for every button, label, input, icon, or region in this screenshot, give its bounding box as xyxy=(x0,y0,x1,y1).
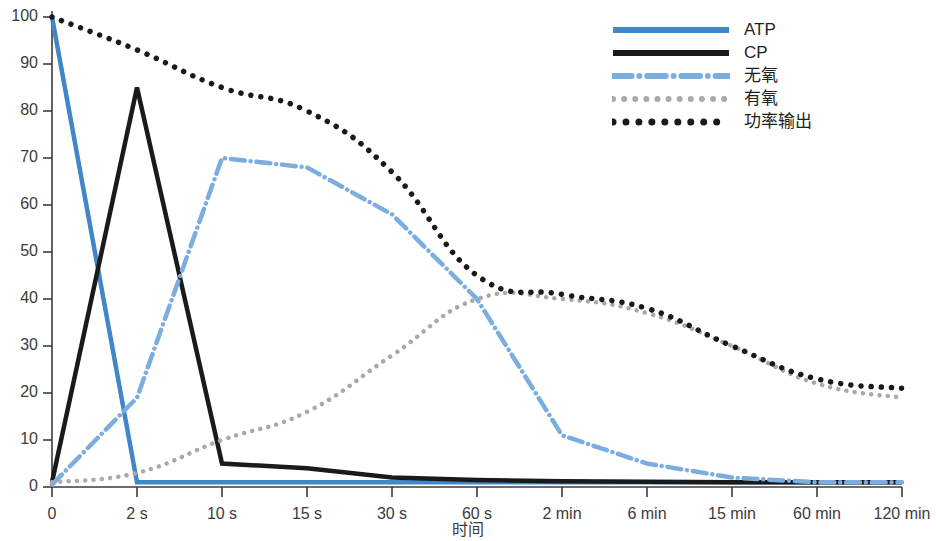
x-axis-tick-label: 30 s xyxy=(377,505,407,523)
legend-item: 有氧 xyxy=(612,87,912,110)
legend-swatch-aerobic xyxy=(612,92,730,106)
legend-swatch-anaerobic xyxy=(612,69,730,83)
y-axis-tick-label: 90 xyxy=(0,54,38,72)
y-axis-tick-label: 10 xyxy=(0,430,38,448)
legend-swatch-atp xyxy=(612,23,730,37)
x-axis-tick-label: 120 min xyxy=(874,505,931,523)
y-axis-tick-label: 100 xyxy=(0,7,38,25)
y-axis-tick-label: 50 xyxy=(0,242,38,260)
y-axis-tick-label: 40 xyxy=(0,289,38,307)
x-axis-tick-label: 60 min xyxy=(793,505,841,523)
legend-item: CP xyxy=(612,41,912,64)
legend-item: 无氧 xyxy=(612,64,912,87)
legend-swatch-power-output xyxy=(612,115,730,129)
legend-item: ATP xyxy=(612,18,912,41)
x-axis-tick-label: 6 min xyxy=(627,505,666,523)
x-axis-tick-label: 15 min xyxy=(708,505,756,523)
chart-legend: ATP CP 无氧 有氧 功率输出 xyxy=(612,18,912,133)
series-line xyxy=(52,88,902,483)
legend-label-aerobic: 有氧 xyxy=(744,90,778,107)
y-axis-tick-label: 70 xyxy=(0,148,38,166)
y-axis-tick-label: 0 xyxy=(0,477,38,495)
legend-label-atp: ATP xyxy=(744,21,776,38)
x-axis-tick-label: 10 s xyxy=(207,505,237,523)
legend-label-cp: CP xyxy=(744,44,768,61)
legend-item: 功率输出 xyxy=(612,110,912,133)
series-line xyxy=(52,158,902,485)
series-line xyxy=(52,293,902,483)
legend-label-power-output: 功率输出 xyxy=(744,113,812,130)
x-axis-tick-label: 2 min xyxy=(542,505,581,523)
legend-swatch-cp xyxy=(612,46,730,60)
x-axis-tick-label: 2 s xyxy=(126,505,147,523)
legend-label-anaerobic: 无氧 xyxy=(744,67,778,84)
chart-container: 0102030405060708090100 02 s10 s15 s30 s6… xyxy=(0,0,936,541)
y-axis-tick-label: 30 xyxy=(0,336,38,354)
y-axis-tick-label: 80 xyxy=(0,101,38,119)
x-axis-title: 时间 xyxy=(452,516,484,540)
x-axis-tick-label: 15 s xyxy=(292,505,322,523)
y-axis-tick-label: 60 xyxy=(0,195,38,213)
x-axis-tick-label: 0 xyxy=(48,505,57,523)
y-axis-tick-label: 20 xyxy=(0,383,38,401)
